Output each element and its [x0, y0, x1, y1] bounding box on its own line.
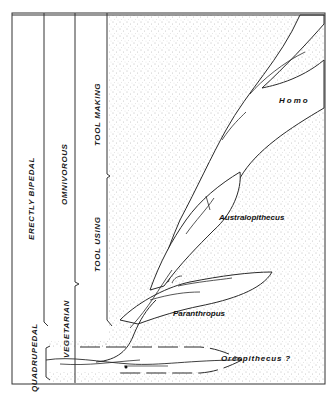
taxon-paranthropus: Paranthropus [173, 309, 225, 318]
label-vegetarian: VEGETARIAN [62, 300, 71, 358]
stippled-region [48, 15, 324, 383]
label-tool-making: TOOL MAKING [93, 83, 102, 146]
label-tool-using: TOOL USING [93, 217, 102, 273]
label-erectly-bipedal: ERECTLY BIPEDAL [27, 157, 36, 240]
label-quadrupedal: QUADRUPEDAL [30, 323, 39, 392]
label-omnivorous: OMNIVOROUS [60, 143, 69, 205]
hominid-evolution-diagram: ERECTLY BIPEDAL QUADRUPEDAL OMNIVOROUS V… [0, 0, 336, 402]
taxon-australopithecus: Australopithecus [219, 213, 284, 222]
column-dividers [44, 13, 112, 383]
taxon-homo: Homo [279, 96, 310, 105]
diagram-canvas [0, 0, 336, 402]
taxon-oreopithecus: Oreopithecus ? [221, 354, 291, 363]
